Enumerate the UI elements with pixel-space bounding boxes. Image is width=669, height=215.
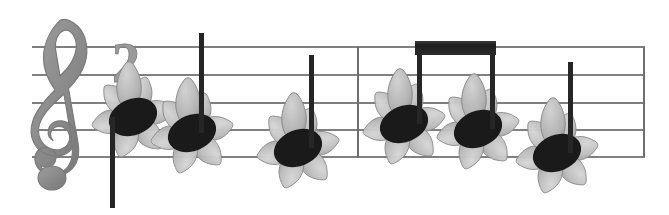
eighth-note-beam <box>415 41 496 55</box>
treble-clef-bulb <box>38 166 66 190</box>
music-score: 2 <box>0 0 669 215</box>
beam-layer <box>415 41 496 55</box>
music-sheet-canvas: 2 <box>0 0 669 215</box>
